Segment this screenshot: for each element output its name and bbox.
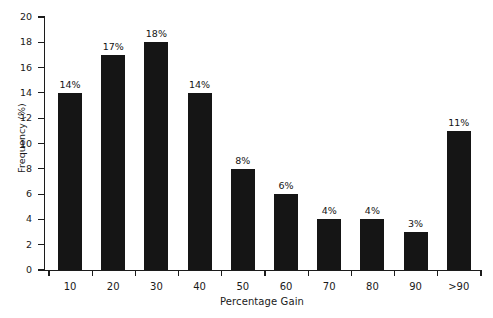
x-tick-mark (178, 270, 179, 276)
x-tick-label: 60 (264, 281, 308, 292)
bar-value-label: 14% (177, 80, 223, 90)
y-tick-mark (38, 194, 44, 195)
y-tick-mark (38, 219, 44, 220)
y-tick-mark (38, 92, 44, 93)
bar-value-label: 18% (133, 29, 179, 39)
x-tick-mark (135, 270, 136, 276)
y-tick-mark (38, 244, 44, 245)
y-tick-label: 18 (4, 37, 32, 47)
bar-value-label: 4% (306, 206, 352, 216)
y-axis-line (44, 16, 45, 271)
y-tick-label: 16 (4, 63, 32, 73)
bar (188, 93, 212, 270)
y-tick-label: 20 (4, 12, 32, 22)
bar-value-label: 11% (436, 118, 482, 128)
bar-value-label: 8% (220, 156, 266, 166)
x-tick-mark (92, 270, 93, 276)
x-tick-mark (351, 270, 352, 276)
plot-area: 02468101214161820 102030405060708090>90 … (0, 0, 493, 318)
bar (101, 55, 125, 270)
x-tick-label: 90 (394, 281, 438, 292)
y-tick-mark (38, 168, 44, 169)
y-tick-label: 0 (4, 265, 32, 275)
bar (404, 232, 428, 270)
x-tick-label: 50 (221, 281, 265, 292)
y-tick-mark (38, 42, 44, 43)
x-tick-label: 70 (307, 281, 351, 292)
x-tick-label: >90 (437, 281, 481, 292)
bar-value-label: 3% (393, 219, 439, 229)
bar (144, 42, 168, 270)
bar-value-label: 17% (90, 42, 136, 52)
bar (231, 169, 255, 270)
x-tick-mark (48, 270, 49, 276)
y-tick-label: 2 (4, 240, 32, 250)
x-tick-mark (437, 270, 438, 276)
bar (274, 194, 298, 270)
x-tick-mark (308, 270, 309, 276)
x-tick-label: 40 (178, 281, 222, 292)
bar (360, 219, 384, 270)
y-tick-label: 6 (4, 189, 32, 199)
bar-value-label: 4% (349, 206, 395, 216)
x-tick-mark (264, 270, 265, 276)
x-tick-label: 30 (134, 281, 178, 292)
y-tick-mark (38, 16, 44, 17)
y-axis-title: Frequency (%) (17, 93, 27, 183)
bar-value-label: 14% (47, 80, 93, 90)
x-tick-mark (221, 270, 222, 276)
y-tick-label: 4 (4, 214, 32, 224)
bar-chart: 02468101214161820 102030405060708090>90 … (0, 0, 493, 318)
x-axis-line (44, 270, 480, 271)
y-tick-mark (38, 67, 44, 68)
y-tick-mark (38, 269, 44, 270)
x-tick-mark (394, 270, 395, 276)
x-tick-mark (480, 270, 481, 276)
x-tick-label: 10 (48, 281, 92, 292)
bar (317, 219, 341, 270)
x-axis-title: Percentage Gain (44, 296, 480, 307)
x-tick-label: 20 (91, 281, 135, 292)
bar (58, 93, 82, 270)
y-tick-mark (38, 118, 44, 119)
bar (447, 131, 471, 270)
x-tick-label: 80 (350, 281, 394, 292)
bar-value-label: 6% (263, 181, 309, 191)
y-tick-mark (38, 143, 44, 144)
